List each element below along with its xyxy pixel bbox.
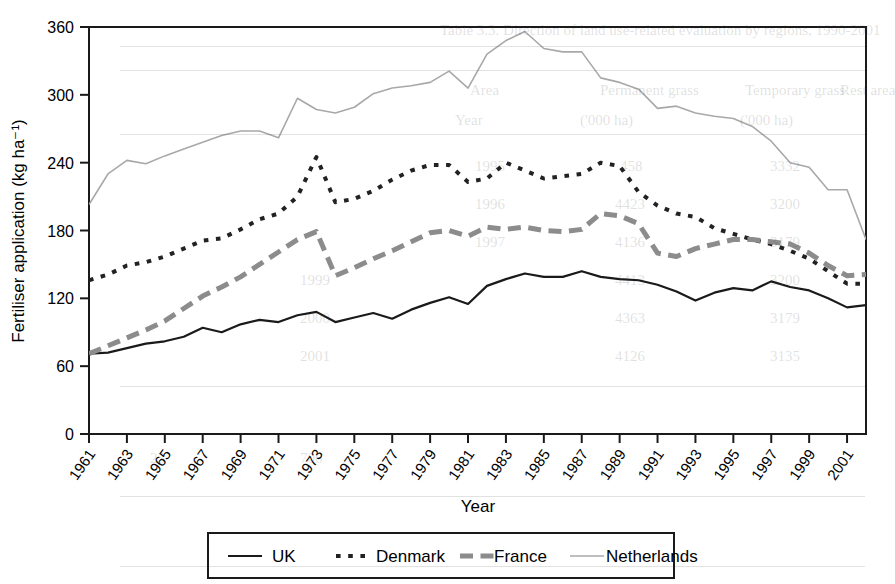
legend-label-denmark: Denmark <box>376 547 445 566</box>
y-axis-title: Fertiliser application (kg ha⁻¹) <box>9 119 28 342</box>
x-tick-label-1993: 1993 <box>672 446 705 483</box>
x-tick-label-1975: 1975 <box>331 446 364 483</box>
x-tick-label-1967: 1967 <box>179 446 212 483</box>
x-tick-label-1965: 1965 <box>141 446 174 483</box>
x-axis-ticks: 1961196319651967196919711973197519771979… <box>65 434 856 483</box>
legend-label-france: France <box>494 547 547 566</box>
x-tick-label-1961: 1961 <box>65 446 98 483</box>
data-series-group <box>89 32 866 354</box>
x-tick-label-1963: 1963 <box>103 446 136 483</box>
y-tick-label-300: 300 <box>47 87 74 104</box>
series-line-uk <box>89 271 866 354</box>
x-tick-label-2001: 2001 <box>823 446 856 483</box>
x-tick-label-1977: 1977 <box>369 446 402 483</box>
x-tick-label-1979: 1979 <box>407 446 440 483</box>
x-tick-label-1981: 1981 <box>444 446 477 483</box>
y-tick-label-120: 120 <box>47 290 74 307</box>
chart-legend: UKDenmarkFranceNetherlands <box>208 533 698 578</box>
x-tick-label-1983: 1983 <box>482 446 515 483</box>
x-axis-title: Year <box>461 497 496 516</box>
y-axis-ticks: 060120180240300360 <box>47 19 89 443</box>
x-tick-label-1997: 1997 <box>748 446 781 483</box>
x-tick-label-1995: 1995 <box>710 446 743 483</box>
x-tick-label-1991: 1991 <box>634 446 667 483</box>
x-tick-label-1989: 1989 <box>596 446 629 483</box>
y-tick-label-360: 360 <box>47 19 74 36</box>
x-tick-label-1985: 1985 <box>520 446 553 483</box>
x-tick-label-1999: 1999 <box>786 446 819 483</box>
y-tick-label-240: 240 <box>47 155 74 172</box>
y-tick-label-180: 180 <box>47 223 74 240</box>
x-tick-label-1971: 1971 <box>255 446 288 483</box>
x-tick-label-1973: 1973 <box>293 446 326 483</box>
series-line-france <box>89 214 866 354</box>
series-line-denmark <box>89 157 866 284</box>
y-tick-label-60: 60 <box>56 358 74 375</box>
legend-label-uk: UK <box>272 547 296 566</box>
y-tick-label-0: 0 <box>65 426 74 443</box>
x-tick-label-1969: 1969 <box>217 446 250 483</box>
legend-label-netherlands: Netherlands <box>606 547 698 566</box>
x-tick-label-1987: 1987 <box>558 446 591 483</box>
series-line-netherlands <box>89 32 866 240</box>
